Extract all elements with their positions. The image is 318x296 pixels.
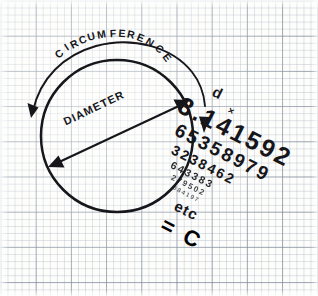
circumference-letter: M xyxy=(96,27,107,40)
circumference-letter: F xyxy=(109,27,116,39)
circumference-letter: R xyxy=(126,27,136,40)
graph-paper-sheet: C I R C U M F E R E N C E DIAMETER d × 3… xyxy=(0,0,318,296)
circumference-letter: E xyxy=(118,27,126,39)
circumference-letter: C xyxy=(52,46,66,60)
circumference-letter: E xyxy=(160,51,174,64)
